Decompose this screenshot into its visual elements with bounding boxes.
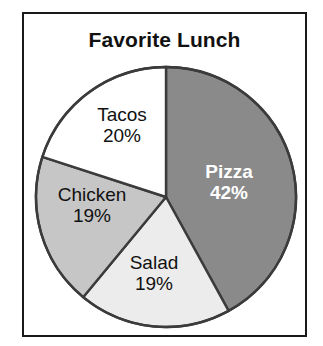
chart-title: Favorite Lunch xyxy=(24,28,305,52)
chart-frame: Favorite Lunch xyxy=(22,12,307,337)
pie-chart-screenshot: Favorite Lunch Pizza 42% Salad 19% Chick… xyxy=(0,0,323,346)
